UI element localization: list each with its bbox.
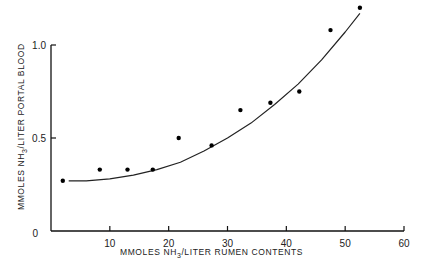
data-point [61, 179, 65, 183]
scatter-chart: 00.51.0102030405060 MMOLES NH3/LITER RUM… [0, 0, 421, 275]
data-point [358, 6, 362, 10]
x-tick-label: 50 [340, 238, 352, 249]
data-point [328, 28, 332, 32]
x-tick-label: 60 [398, 238, 410, 249]
data-points [61, 6, 362, 183]
axis-labels: MMOLES NH3/LITER RUMEN CONTENTS MMOLES N… [16, 43, 303, 259]
y-axis-label: MMOLES NH3/LITER PORTAL BLOOD [16, 43, 28, 210]
data-point [98, 167, 102, 171]
data-point [268, 101, 272, 105]
fitted-curve-path [69, 13, 360, 180]
data-point [209, 143, 213, 147]
x-axis-label: MMOLES NH3/LITER RUMEN CONTENTS [120, 247, 303, 259]
data-point [125, 167, 129, 171]
y-tick-label: 0 [32, 228, 38, 239]
axes: 00.51.0102030405060 [32, 40, 410, 249]
data-point [151, 167, 155, 171]
x-tick-label: 10 [104, 238, 116, 249]
data-point [177, 136, 181, 140]
fitted-curve [69, 13, 360, 180]
data-point [297, 89, 301, 93]
data-point [238, 108, 242, 112]
y-tick-label: 0.5 [32, 133, 46, 144]
y-tick-label: 1.0 [32, 40, 46, 51]
